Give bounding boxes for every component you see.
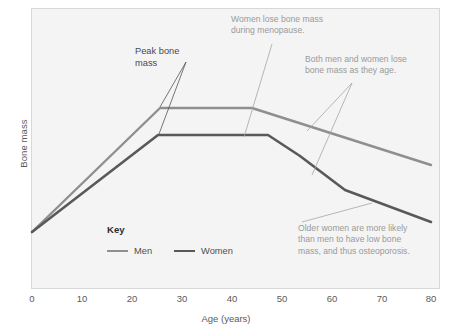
- annotation-both-lose-bone-mass: Both men and women lose bone mass as the…: [305, 54, 447, 77]
- series-line-women: [32, 135, 431, 232]
- leader-line-menopause: [244, 44, 272, 137]
- x-tick-70: 70: [377, 293, 388, 304]
- annotation-peak-bone-mass: Peak bone mass: [135, 45, 179, 69]
- legend-label-women: Women: [201, 246, 233, 256]
- x-tick-30: 30: [177, 293, 188, 304]
- legend-swatch-women-icon: [174, 250, 195, 253]
- legend-swatch-men-icon: [107, 250, 128, 253]
- legend-item-women: Women: [174, 246, 233, 256]
- leader-line-older-women: [302, 203, 372, 222]
- annotation-older-women: Older women are more likely than men to …: [298, 223, 450, 257]
- x-tick-40: 40: [227, 293, 238, 304]
- x-tick-10: 10: [77, 293, 88, 304]
- x-tick-20: 20: [127, 293, 138, 304]
- chart-canvas: [0, 0, 452, 335]
- series-line-men: [32, 108, 431, 232]
- x-tick-60: 60: [327, 293, 338, 304]
- bone-mass-chart-figure: Bone mass 0 10 20 30 40 50 60 70 80 Age …: [0, 0, 452, 335]
- annotation-menopause: Women lose bone mass during menopause.: [231, 14, 381, 37]
- legend-entries: Men Women: [107, 246, 255, 256]
- leader-line-peak-women: [159, 62, 186, 134]
- legend-item-men: Men: [107, 246, 152, 256]
- y-axis-title: Bone mass: [18, 104, 29, 184]
- legend-title: Key: [107, 224, 255, 235]
- x-tick-50: 50: [277, 293, 288, 304]
- x-tick-80: 80: [426, 293, 437, 304]
- x-tick-0: 0: [29, 293, 34, 304]
- leader-line-both-men: [307, 83, 352, 131]
- legend: Key Men Women: [107, 224, 255, 256]
- x-axis-title: Age (years): [0, 313, 452, 324]
- legend-label-men: Men: [134, 246, 152, 256]
